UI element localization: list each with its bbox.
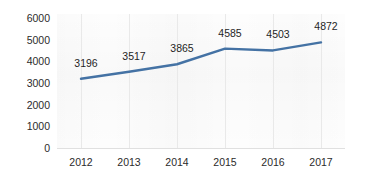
data-point-label: 3517	[122, 51, 145, 62]
y-axis-tick-label: 3000	[4, 78, 50, 89]
y-axis-tick-label: 4000	[4, 56, 50, 67]
x-axis-tick-label: 2014	[165, 157, 188, 168]
y-axis-tick-label: 5000	[4, 35, 50, 46]
data-point-label: 4585	[218, 28, 241, 39]
x-axis-tick-label: 2017	[309, 157, 332, 168]
line-chart: 0100020003000400050006000 20122013201420…	[0, 0, 369, 180]
data-point-label: 4872	[314, 21, 337, 32]
y-axis-tick-label: 2000	[4, 100, 50, 111]
y-axis: 0100020003000400050006000	[2, 0, 50, 180]
x-axis-tick-label: 2013	[117, 157, 140, 168]
y-axis-tick-label: 6000	[4, 13, 50, 24]
data-point-label: 4503	[266, 29, 289, 40]
x-axis-tick-label: 2012	[69, 157, 92, 168]
data-point-label: 3865	[170, 43, 193, 54]
series-line	[81, 42, 321, 78]
x-axis-tick-label: 2016	[261, 157, 284, 168]
x-axis-tick-label: 2015	[213, 157, 236, 168]
y-axis-tick-label: 1000	[4, 121, 50, 132]
data-point-label: 3196	[74, 58, 97, 69]
y-axis-tick-label: 0	[4, 143, 50, 154]
